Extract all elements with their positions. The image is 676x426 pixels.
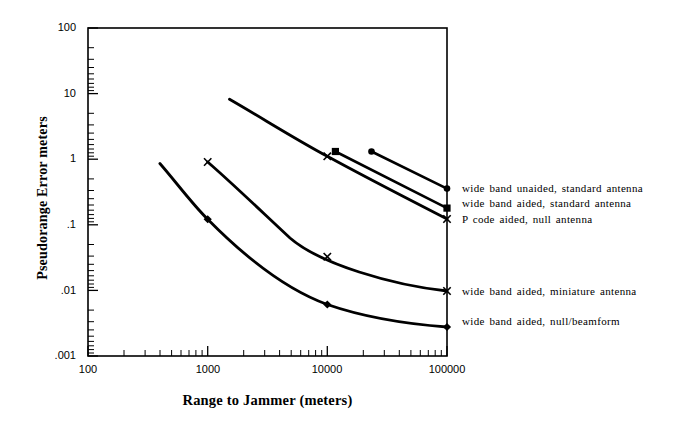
series-wide-band-aided-standard-antenna — [332, 148, 451, 212]
x-axis-title: Range to Jammer (meters) — [88, 392, 447, 409]
legend-item-p-code-aided-null-antenna: P code aided, null antenna — [462, 213, 592, 225]
legend-item-wide-band-aided-standard-antenna: wide band aided, standard antenna — [462, 197, 631, 209]
data-marker-diamond — [204, 215, 452, 331]
x-tick-label-1000: 1000 — [178, 364, 238, 375]
y-axis-title: Pseudorange Error meters — [35, 93, 51, 303]
chart-figure: 100 10 1 .1 .01 .001 100 1000 10000 1000… — [0, 0, 676, 426]
legend-item-wide-band-aided-miniature-antenna: wide band aided, miniature antenna — [462, 285, 637, 297]
series-wide-band-aided-miniature-antenna — [204, 158, 451, 294]
legend-item-wide-band-unaided-standard-antenna: wide band unaided, standard antenna — [462, 182, 643, 194]
data-marker-circle — [368, 148, 375, 155]
series-p-code-aided-null-antenna — [230, 99, 451, 222]
data-marker-square — [332, 148, 339, 155]
data-marker-circle — [444, 185, 451, 192]
data-marker-square — [443, 205, 450, 212]
x-tick-label-100: 100 — [58, 364, 118, 375]
data-marker-cross — [204, 158, 451, 294]
legend-item-wide-band-aided-null-beamform: wide band aided, null/beamform — [462, 315, 620, 327]
x-tick-label-100000: 100000 — [417, 364, 477, 375]
x-axis-ticks — [88, 346, 447, 356]
y-tick-label-point001: .001 — [18, 350, 76, 361]
y-tick-label-100: 100 — [18, 22, 76, 33]
y-axis-ticks — [88, 28, 98, 356]
x-tick-label-10000: 10000 — [297, 364, 357, 375]
